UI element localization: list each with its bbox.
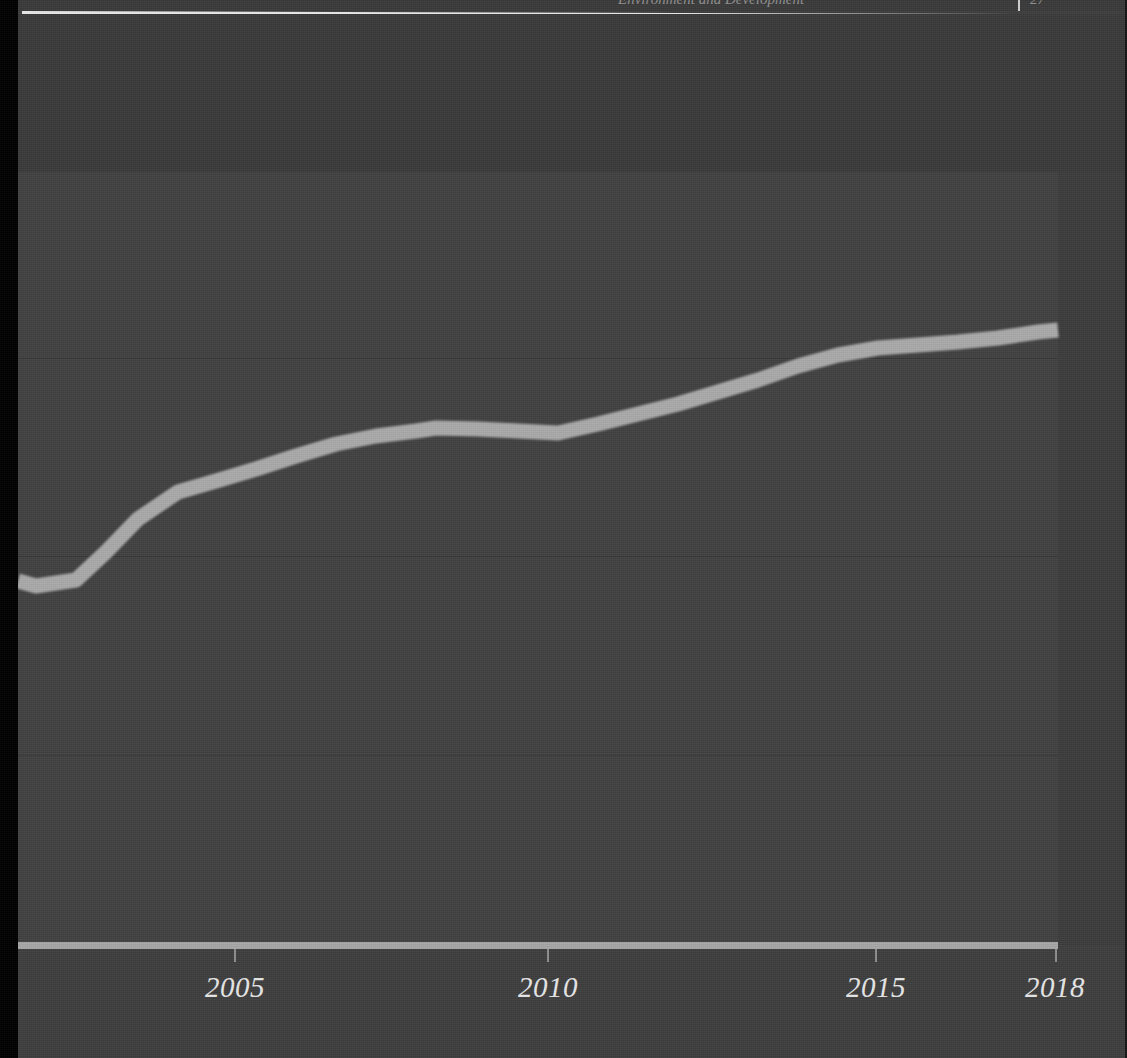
x-axis-line [18,942,1058,949]
x-axis-label-2015: 2015 [846,971,906,1004]
page-number: 27 [1030,0,1045,8]
plot-area [18,172,1058,945]
page-header: Environment and Development 27 [18,0,1125,11]
x-axis-label-2018: 2018 [1025,971,1085,1004]
x-tick-2005 [234,949,236,962]
x-tick-2018 [1055,949,1057,962]
left-page-gutter [0,0,18,1058]
x-tick-2015 [875,949,877,962]
gridline-y-50 [18,556,1058,557]
plot-right-margin [1058,172,1125,945]
x-tick-2010 [547,949,549,962]
x-axis-label-2010: 2010 [518,971,578,1004]
gridline-y-25 [18,755,1058,756]
header-divider [1018,0,1020,11]
line-chart-figure: 2005 2010 2015 2018 [18,14,1125,1058]
x-axis-label-2005: 2005 [205,971,265,1004]
header-title: Environment and Development [618,0,998,8]
gridline-y-75 [18,358,1058,359]
plot-top-margin [18,14,1125,172]
figure-page: Environment and Development 27 2005 [0,0,1127,1058]
